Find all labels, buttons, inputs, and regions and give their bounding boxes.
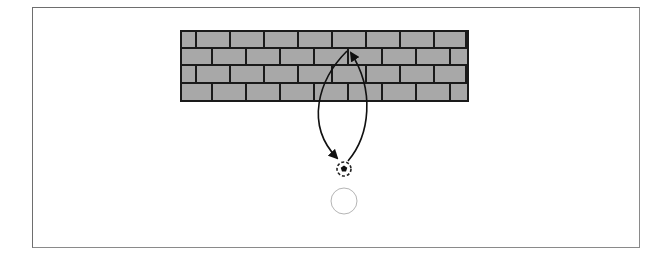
brick-wall: [180, 30, 469, 102]
ball: [337, 162, 351, 176]
diagram-canvas: [0, 0, 672, 262]
ghost-ball: [331, 188, 357, 214]
